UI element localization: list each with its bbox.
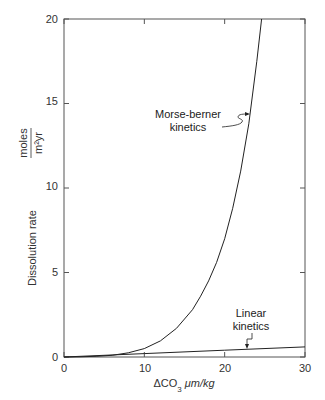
annotation-leader-squiggle [222,114,248,127]
annotation-leader-line [247,333,252,345]
annotation-morse-berner-line1: Morse-berner [155,108,221,120]
y-tick-labels: 0 5 10 15 20 [46,13,58,363]
y-axis-unit-denominator: m²yr [32,132,44,154]
x-tick-20: 20 [219,362,231,374]
arrowhead-icon [245,344,249,349]
x-tick-10: 10 [139,362,151,374]
y-tick-20: 20 [46,13,58,25]
plot-frame [64,19,305,357]
y-axis-label-main: Dissolution rate [26,210,38,286]
linear-kinetics-line [64,347,305,357]
x-tick-30: 30 [299,362,311,374]
x-axis-label-main: ΔCO [153,377,177,389]
arrowhead-icon [245,112,250,116]
y-axis-unit: moles m²yr [17,128,44,158]
annotation-morse-berner-line2: kinetics [170,121,207,133]
annotation-morse-berner: Morse-berner kinetics [155,108,250,133]
annotation-linear-line1: Linear [236,307,267,319]
x-axis-label: ΔCO3 μm/kg [153,377,215,394]
y-tick-0: 0 [52,351,58,363]
tick-marks [64,19,305,357]
annotation-linear: Linear kinetics [233,307,270,349]
chart: 0 5 10 15 20 0 10 20 30 ΔCO3 μm/kg Disso… [0,0,325,400]
x-axis-label-unit: μm/kg [182,377,216,389]
y-tick-5: 5 [52,266,58,278]
morse-berner-curve [64,19,262,357]
y-axis-label: Dissolution rate [26,210,38,286]
x-tick-0: 0 [61,362,67,374]
y-tick-10: 10 [46,180,58,192]
annotation-linear-line2: kinetics [233,320,270,332]
x-tick-labels: 0 10 20 30 [61,362,311,374]
y-axis-unit-numerator: moles [17,128,29,158]
y-tick-15: 15 [46,95,58,107]
